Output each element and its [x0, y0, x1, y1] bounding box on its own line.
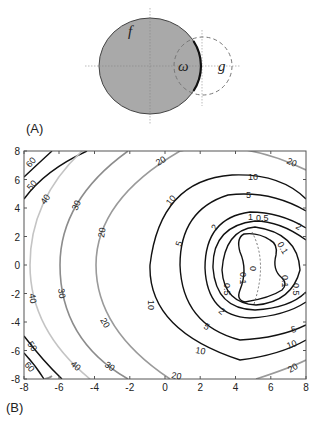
- x-tick-label: 0: [162, 382, 168, 393]
- contour-label-10: 10: [248, 172, 258, 182]
- y-tick-label: 2: [14, 232, 20, 243]
- contour-label-2: 2: [209, 223, 220, 232]
- contour-label-0.5: 0.5: [222, 283, 232, 296]
- x-tick-label: 8: [303, 382, 309, 393]
- contour-label-50: 50: [25, 178, 39, 192]
- panel-b: -8 -6 -4 -2 0 2 4 6 8 8 6 4 2 0: [6, 146, 309, 415]
- contour-labels: 60 50 40 30 20 20 20 40 30 20 50 60 40 3…: [22, 154, 303, 382]
- contour-label-30: 30: [56, 288, 68, 300]
- y-tick-label: 4: [14, 203, 20, 214]
- panel-b-label: (B): [6, 400, 23, 415]
- x-axis: [24, 151, 306, 379]
- panel-a: f ω g (A): [26, 8, 240, 136]
- contour-label-10: 10: [146, 300, 156, 310]
- contour-label-0.5: 0.5: [291, 283, 301, 296]
- contour-label-20: 20: [96, 227, 108, 239]
- contour-label-1: 1: [248, 212, 253, 222]
- y-tick-label: 8: [14, 146, 20, 157]
- x-tick-label: -2: [125, 382, 134, 393]
- x-tick-label: -8: [20, 382, 29, 393]
- y-axis: [24, 151, 306, 379]
- contour-label-0.1: 0.1: [238, 272, 248, 285]
- y-tick-label: 0: [14, 260, 20, 271]
- contour-lines: [24, 147, 306, 379]
- y-tick-label: -2: [11, 289, 20, 300]
- contour-5: [180, 194, 306, 340]
- x-tick-label: 6: [268, 382, 274, 393]
- contour-label-10: 10: [285, 338, 298, 351]
- contour-label-5: 5: [246, 190, 251, 200]
- contour-label-60: 60: [22, 360, 36, 374]
- x-tick-label: 2: [197, 382, 203, 393]
- contour-label-20: 20: [285, 156, 298, 169]
- plot-frame: [24, 151, 306, 379]
- contour-30: [60, 151, 128, 379]
- contour-0.5: [222, 227, 300, 305]
- x-tick-label: -4: [90, 382, 99, 393]
- contour-label-0.1: 0.1: [280, 275, 290, 288]
- contour-label-0: 0: [248, 266, 258, 271]
- contour-label-10: 10: [195, 345, 207, 357]
- contour-label-40: 40: [38, 192, 52, 206]
- x-tick-label: 4: [233, 382, 239, 393]
- panel-a-label: (A): [26, 121, 43, 136]
- contour-20-left: [96, 151, 180, 379]
- contour-label-10: 10: [164, 193, 178, 207]
- y-tick-label: -6: [11, 346, 20, 357]
- label-omega: ω: [178, 58, 189, 74]
- contour-label-40: 40: [27, 293, 39, 305]
- contour-label-0.1: 0.1: [275, 240, 290, 256]
- x-tick-label: -6: [55, 382, 64, 393]
- y-tick-label: -8: [11, 374, 20, 385]
- y-tick-label: 6: [14, 175, 20, 186]
- contour-label-20: 20: [171, 370, 183, 382]
- contour-label-0.5: 0.5: [256, 213, 269, 223]
- label-g: g: [218, 58, 226, 74]
- figure: f ω g (A): [0, 0, 318, 422]
- contour-label-30: 30: [70, 199, 83, 212]
- contour-label-60: 60: [24, 155, 38, 169]
- x-tick-labels: -8 -6 -4 -2 0 2 4 6 8: [20, 382, 310, 393]
- y-tick-labels: 8 6 4 2 0 -2 -4 -6 -8: [11, 146, 20, 385]
- y-tick-label: -4: [11, 317, 20, 328]
